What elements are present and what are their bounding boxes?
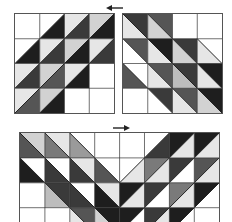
block-top-right <box>122 13 223 114</box>
arrow-right-icon <box>112 124 130 132</box>
block-top-left <box>14 13 115 114</box>
arrow-left-icon <box>106 4 124 12</box>
block-bottom-assembled <box>19 132 220 222</box>
